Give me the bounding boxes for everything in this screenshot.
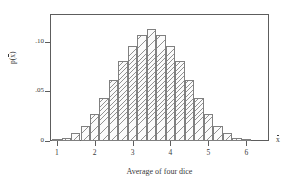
- x-axis-tick: [246, 141, 247, 146]
- y-axis-tick-label: 0: [4, 137, 44, 144]
- y-axis-title: p(x): [9, 52, 17, 65]
- histogram-bar: [118, 61, 127, 141]
- x-axis-tick: [170, 141, 171, 146]
- x-axis-tick-label: 5: [198, 149, 218, 157]
- axis-end-x-bar-symbol: x: [276, 136, 280, 144]
- histogram-bar: [99, 98, 108, 141]
- histogram-bar: [128, 46, 137, 141]
- x-axis-tick-label: 2: [85, 149, 105, 157]
- histogram-bar: [204, 114, 213, 141]
- x-axis-tick: [95, 141, 96, 146]
- x-axis-title: Average of four dice: [50, 167, 269, 176]
- y-axis-tick: [45, 42, 50, 43]
- histogram-bar: [156, 35, 165, 141]
- histogram-bar: [71, 133, 80, 141]
- x-axis-tick: [133, 141, 134, 146]
- histogram-bar: [90, 114, 99, 141]
- y-axis-tick: [45, 141, 50, 142]
- y-axis-tick-label: .05: [4, 87, 44, 94]
- histogram-bar: [147, 29, 156, 141]
- chart-figure: 0.05.10 123456 p(x) Average of four dice…: [0, 0, 288, 195]
- y-axis-tick: [45, 91, 50, 92]
- x-axis-tick: [208, 141, 209, 146]
- histogram-bar: [213, 126, 222, 141]
- histogram-bar: [194, 98, 203, 141]
- x-axis-tick-label: 4: [160, 149, 180, 157]
- histogram-bar: [185, 80, 194, 141]
- x-bar-symbol: x: [9, 54, 17, 58]
- histogram-bar: [223, 133, 232, 141]
- y-axis-title-prefix: p(: [8, 58, 17, 64]
- histogram-bar: [175, 61, 184, 141]
- histogram-bar: [109, 80, 118, 141]
- x-axis-tick-label: 6: [236, 149, 256, 157]
- x-axis-tick: [57, 141, 58, 146]
- histogram-bar: [166, 46, 175, 141]
- histogram-bar: [137, 35, 146, 141]
- y-axis-tick-label: .10: [4, 38, 44, 45]
- histogram-bar: [62, 138, 71, 141]
- histogram-bars: [50, 14, 269, 141]
- x-axis-tick-label: 3: [123, 149, 143, 157]
- histogram-bar: [232, 138, 241, 141]
- axis-end-x-bar-label: x: [276, 136, 280, 144]
- histogram-bar: [81, 126, 90, 141]
- x-axis-tick-label: 1: [47, 149, 67, 157]
